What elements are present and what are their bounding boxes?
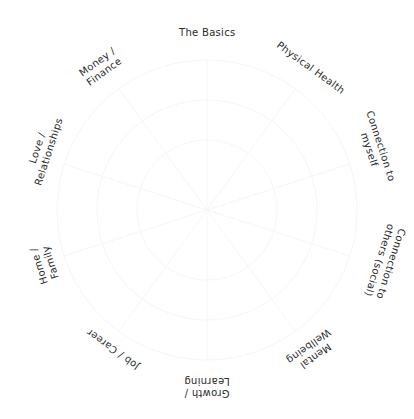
segment-label-growth-learning: Growth / Learning [184, 375, 230, 399]
faint-wheel-lines [0, 0, 414, 419]
life-wheel-diagram: The Basics Physical Health Connection to… [0, 0, 414, 419]
segment-label-the-basics: The Basics [179, 27, 235, 39]
